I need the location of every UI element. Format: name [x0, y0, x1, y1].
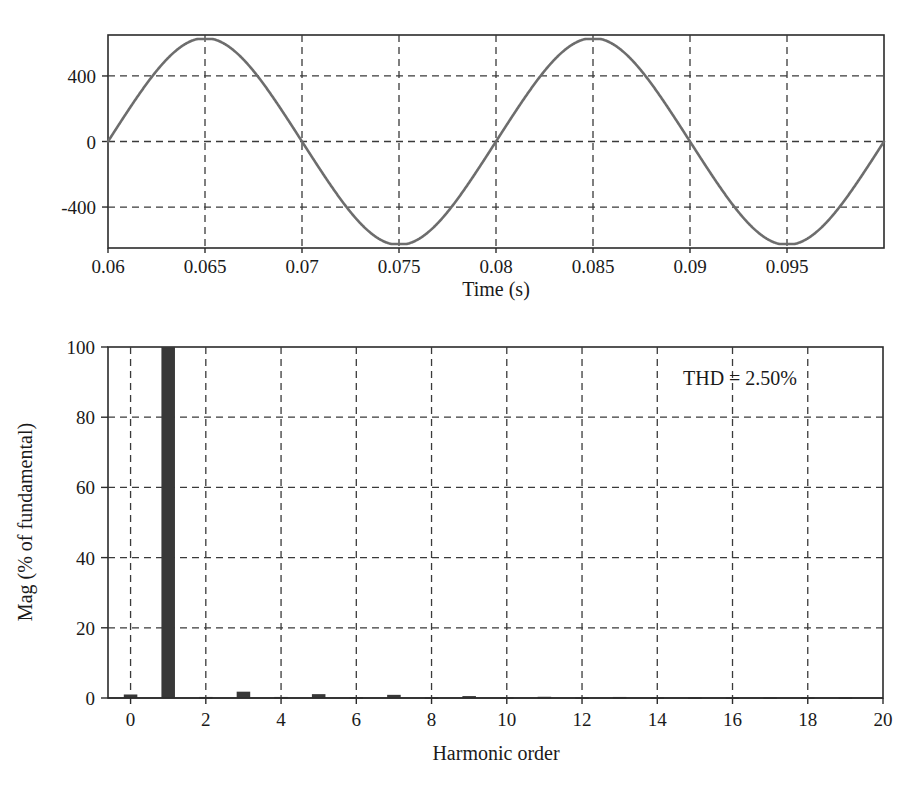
spectrum-svg: 020406080100 02468101214161820 Mag (% of…	[0, 310, 924, 787]
spectrum-y-axis-title: Mag (% of fundamental)	[14, 423, 37, 621]
waveform-trace-line	[108, 39, 884, 244]
waveform-x-tick-label: 0.07	[285, 256, 318, 277]
spectrum-y-tick-label: 20	[76, 618, 95, 639]
spectrum-x-axis-title: Harmonic order	[432, 742, 560, 764]
spectrum-y-tick-label: 40	[76, 548, 95, 569]
waveform-y-axis-ticks: -4000400	[61, 66, 108, 218]
waveform-x-tick-label: 0.065	[184, 256, 227, 277]
spectrum-y-tick-label: 60	[76, 477, 95, 498]
spectrum-x-tick-label: 2	[201, 709, 211, 730]
spectrum-bar	[161, 347, 175, 698]
waveform-x-tick-label: 0.095	[766, 256, 809, 277]
spectrum-x-tick-label: 8	[427, 709, 437, 730]
waveform-x-tick-label: 0.09	[673, 256, 706, 277]
spectrum-x-tick-label: 10	[497, 709, 516, 730]
spectrum-x-axis-ticks: 02468101214161820	[126, 698, 893, 730]
waveform-panel: -4000400 0.060.0650.070.0750.080.0850.09…	[0, 0, 924, 310]
waveform-x-tick-label: 0.08	[479, 256, 512, 277]
waveform-y-tick-label: -400	[61, 197, 96, 218]
spectrum-x-tick-label: 16	[723, 709, 742, 730]
waveform-y-tick-label: 400	[68, 66, 97, 87]
spectrum-x-tick-label: 12	[573, 709, 592, 730]
spectrum-x-tick-label: 4	[276, 709, 286, 730]
spectrum-x-tick-label: 20	[874, 709, 893, 730]
waveform-x-axis-title: Time (s)	[462, 278, 530, 301]
spectrum-y-axis-ticks: 020406080100	[67, 337, 109, 709]
spectrum-panel: 020406080100 02468101214161820 Mag (% of…	[0, 310, 924, 787]
waveform-x-tick-label: 0.085	[572, 256, 615, 277]
spectrum-y-tick-label: 0	[86, 688, 96, 709]
figure-container: -4000400 0.060.0650.070.0750.080.0850.09…	[0, 0, 924, 787]
spectrum-x-tick-label: 6	[352, 709, 362, 730]
spectrum-x-tick-label: 14	[648, 709, 668, 730]
thd-annotation-label: THD = 2.50%	[683, 367, 797, 389]
spectrum-y-tick-label: 80	[76, 407, 95, 428]
waveform-x-tick-label: 0.06	[91, 256, 124, 277]
spectrum-gridlines	[108, 347, 883, 698]
waveform-svg: -4000400 0.060.0650.070.0750.080.0850.09…	[0, 0, 924, 310]
spectrum-bar	[237, 692, 251, 698]
waveform-x-tick-label: 0.075	[378, 256, 421, 277]
spectrum-x-tick-label: 18	[798, 709, 817, 730]
spectrum-x-tick-label: 0	[126, 709, 136, 730]
waveform-x-axis-ticks: 0.060.0650.070.0750.080.0850.090.095	[91, 248, 808, 277]
waveform-y-tick-label: 0	[87, 132, 97, 153]
spectrum-plot-frame	[108, 347, 883, 698]
spectrum-bars	[108, 347, 883, 699]
spectrum-y-tick-label: 100	[67, 337, 96, 358]
